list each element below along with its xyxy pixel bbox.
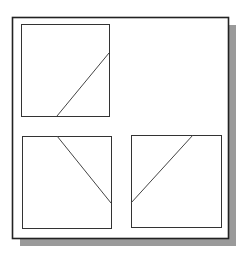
sheet-frame — [13, 18, 229, 239]
drawing-sheet — [0, 0, 246, 257]
